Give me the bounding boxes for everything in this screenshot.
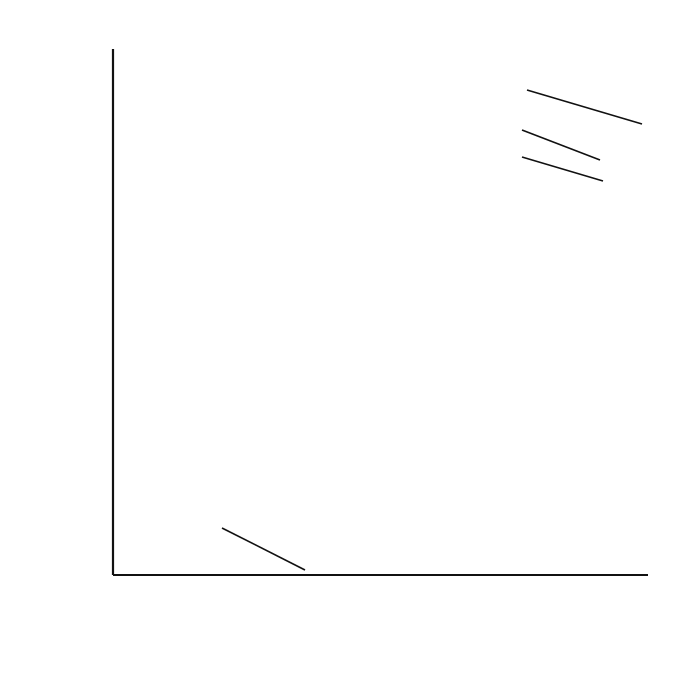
- energy-sources-stacked-area-chart: [0, 0, 679, 677]
- chart-canvas: [0, 0, 679, 677]
